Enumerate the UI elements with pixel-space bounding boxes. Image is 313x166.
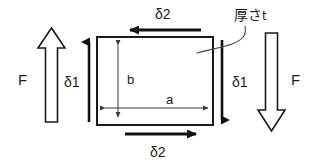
figure-canvas (0, 0, 313, 166)
force-label-left: F (18, 72, 27, 87)
dimension-label-b: b (127, 73, 134, 86)
force-label-right: F (291, 72, 300, 87)
dimension-label-a: a (166, 93, 173, 106)
thickness-label-symbol: t (262, 9, 267, 23)
plate-rectangle (97, 37, 213, 125)
delta2-label-top: δ2 (155, 7, 171, 21)
delta1-label-left: δ1 (64, 75, 80, 89)
thickness-label: 厚さt (234, 8, 267, 22)
delta2-label-bottom: δ2 (150, 145, 166, 159)
force-arrow-right-outline (258, 33, 285, 131)
shear-deformation-figure: F F δ1 δ1 δ2 δ2 b a 厚さt (0, 0, 313, 166)
delta1-label-right: δ1 (232, 75, 248, 89)
force-arrow-left-outline (38, 28, 65, 122)
thickness-label-text: 厚さ (234, 7, 262, 23)
